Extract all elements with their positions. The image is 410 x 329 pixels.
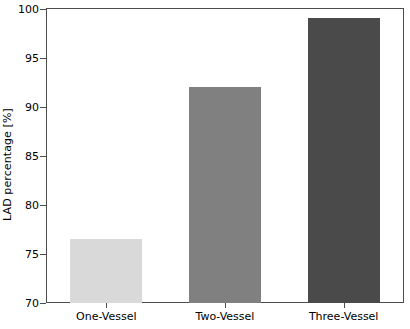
x-axis-tick-label: One-Vessel <box>47 308 166 324</box>
x-axis-tick-label: Two-Vessel <box>166 308 285 324</box>
x-axis-tick-mark <box>344 303 345 308</box>
bar-two-vessel <box>189 87 261 303</box>
bars-container <box>47 9 403 303</box>
x-axis-tick-mark <box>106 303 107 308</box>
bar-three-vessel <box>308 18 380 303</box>
y-axis-tick-mark <box>40 303 46 304</box>
y-axis-title: LAD percentage [%] <box>0 0 14 329</box>
bar-chart-figure: LAD percentage [%] 707580859095100 One-V… <box>0 0 410 329</box>
x-axis-tick-mark <box>225 303 226 308</box>
bar-one-vessel <box>70 239 142 303</box>
x-axis-tick-label: Three-Vessel <box>284 308 403 324</box>
